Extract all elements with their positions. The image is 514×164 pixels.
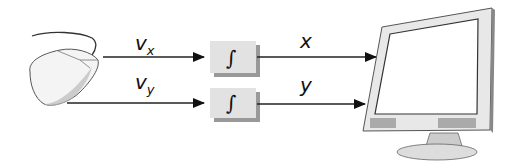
integral-symbol: ∫ xyxy=(226,91,236,115)
label-vy: vy xyxy=(135,70,155,97)
mouse-icon xyxy=(30,32,99,105)
monitor-icon xyxy=(363,8,495,160)
edge-x: x xyxy=(257,29,376,57)
label-y: y xyxy=(299,73,313,97)
edge-vx: vx xyxy=(103,31,204,58)
integrator-x-box: ∫ xyxy=(210,41,260,77)
edge-y: y xyxy=(257,73,365,104)
diagram-canvas: vx vy ∫ ∫ x y xyxy=(0,0,514,164)
integrator-y-box: ∫ xyxy=(210,88,260,122)
integral-symbol: ∫ xyxy=(226,46,236,70)
label-vx: vx xyxy=(135,31,155,58)
label-x: x xyxy=(299,29,312,53)
